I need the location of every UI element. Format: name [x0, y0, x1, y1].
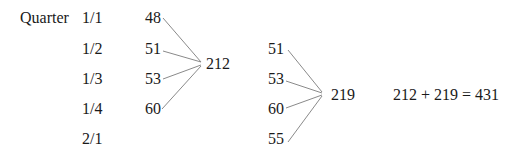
group1-value-3: 53 [145, 70, 161, 88]
group1-sum: 212 [206, 55, 230, 73]
quarter-label-5: 2/1 [82, 130, 102, 148]
group1-value-4: 60 [145, 100, 161, 118]
connector-53-to-212 [163, 65, 201, 79]
group2-value-3: 60 [268, 100, 284, 118]
group1-value-1: 48 [145, 9, 161, 27]
quarter-header-label: Quarter [20, 9, 69, 27]
quarter-label-1: 1/1 [82, 9, 102, 27]
connector-48-to-212 [163, 18, 201, 62]
connector-51-to-219 [288, 50, 322, 92]
connector-60-to-219 [286, 95, 322, 108]
quarter-label-3: 1/3 [82, 70, 102, 88]
connector-lines [0, 0, 511, 151]
group2-value-1: 51 [268, 40, 284, 58]
total-equation: 212 + 219 = 431 [393, 86, 499, 104]
connector-60-to-212 [162, 66, 201, 109]
group2-sum: 219 [331, 86, 355, 104]
connector-51-to-212 [163, 51, 201, 62]
group2-value-4: 55 [268, 130, 284, 148]
quarter-label-4: 1/4 [82, 100, 102, 118]
connector-55-to-219 [288, 96, 322, 142]
group1-value-2: 51 [145, 40, 161, 58]
quarter-label-2: 1/2 [82, 40, 102, 58]
group2-value-2: 53 [268, 70, 284, 88]
connector-53-to-219 [286, 81, 322, 93]
